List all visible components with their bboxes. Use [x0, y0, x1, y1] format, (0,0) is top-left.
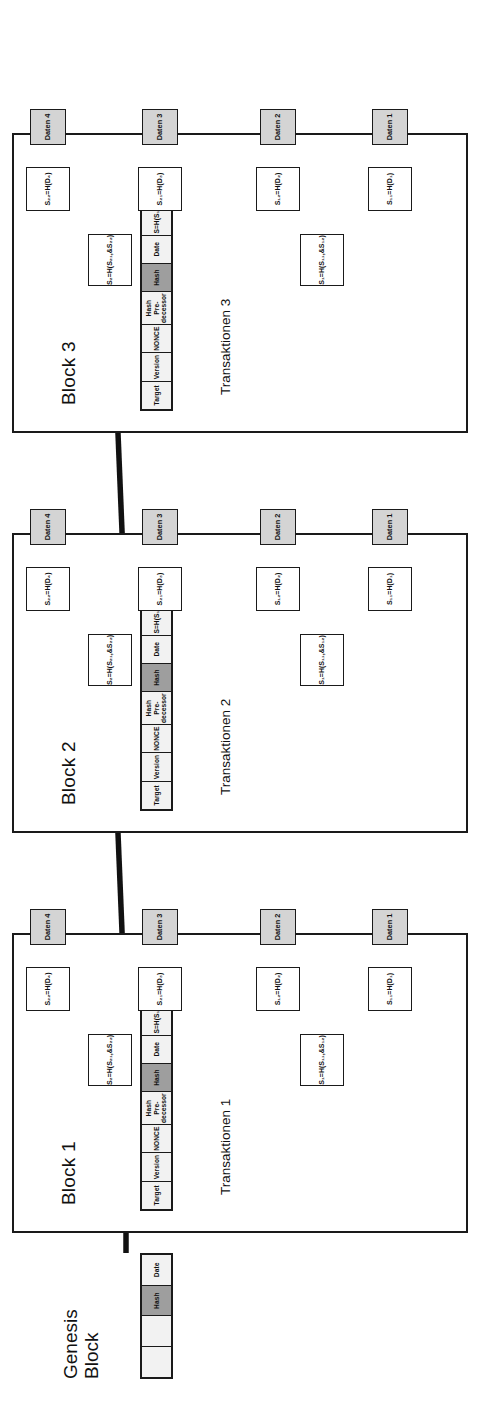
- block-1-header-cell-hash: Hash: [142, 1063, 171, 1091]
- block-1-data-4: Daten 4: [30, 909, 66, 945]
- genesis-header-cell-empty-0: [142, 1346, 171, 1377]
- genesis-block-header: HashDate: [140, 1253, 173, 1379]
- block-1-branch-left: S₁=H(S₁₁,&S₁₂): [300, 1034, 344, 1086]
- block-3-data-1: Daten 1: [372, 109, 408, 145]
- block-3-transactions-label: Transaktionen 3: [218, 299, 233, 395]
- block-1-data-3: Daten 3: [142, 909, 178, 945]
- block-2-leaf-hash-3: S₂₁=H(D₃): [138, 567, 182, 611]
- block-3-header-cell-hash: Hash: [142, 263, 171, 291]
- block-3-leaf-hash-2: S₁₂=H(D₂): [256, 167, 300, 211]
- block-2-branch-left: S₁=H(S₁₁,&S₁₂): [300, 634, 344, 686]
- block-2-header-cell-target: Target: [142, 781, 171, 809]
- genesis-header-cell-date: Date: [142, 1255, 171, 1285]
- block-2-header-cell-hash: Hash: [142, 663, 171, 691]
- block-3-branch-right: S₂=H(S₂₁,&S₂₂): [88, 234, 132, 286]
- block-3-header: TargetVersionNONCEHash Pre-decessorHashD…: [140, 191, 173, 411]
- block-2-leaf-hash-4: S₂₂=H(D₄): [26, 567, 70, 611]
- block-2-leaf-hash-2: S₁₂=H(D₂): [256, 567, 300, 611]
- block-3-leaf-hash-3: S₂₁=H(D₃): [138, 167, 182, 211]
- block-2-title: Block 2: [58, 741, 80, 805]
- block-3-header-cell-hash-pre-decessor: Hash Pre-decessor: [142, 291, 171, 324]
- block-2-leaf-hash-1: S₁₁=H(D₁): [368, 567, 412, 611]
- block-3-leaf-hash-1: S₁₁=H(D₁): [368, 167, 412, 211]
- block-2-header-cell-nonce: NONCE: [142, 724, 171, 752]
- block-1-header: TargetVersionNONCEHash Pre-decessorHashD…: [140, 991, 173, 1211]
- block-3-data-2: Daten 2: [260, 109, 296, 145]
- block-3-header-cell-version: Version: [142, 352, 171, 380]
- genesis-block-title: Genesis Block: [60, 1309, 102, 1379]
- block-2-branch-right: S₂=H(S₂₁,&S₂₂): [88, 634, 132, 686]
- block-2-header-cell-version: Version: [142, 752, 171, 780]
- block-2-header-cell-date: Date: [142, 635, 171, 663]
- block-1-title: Block 1: [58, 1141, 80, 1205]
- block-1-leaf-hash-4: S₂₂=H(D₄): [26, 967, 70, 1011]
- block-1-branch-right: S₂=H(S₂₁,&S₂₂): [88, 1034, 132, 1086]
- block-1-data-2: Daten 2: [260, 909, 296, 945]
- block-3-leaf-hash-4: S₂₂=H(D₄): [26, 167, 70, 211]
- genesis-title-line1: Genesis: [60, 1309, 81, 1379]
- block-2-transactions-label: Transaktionen 2: [218, 699, 233, 795]
- block-3-title: Block 3: [58, 341, 80, 405]
- genesis-title-line2: Block: [81, 1309, 102, 1379]
- block-1-leaf-hash-3: S₂₁=H(D₃): [138, 967, 182, 1011]
- block-2-header-cell-hash-pre-decessor: Hash Pre-decessor: [142, 691, 171, 724]
- block-2-data-2: Daten 2: [260, 509, 296, 545]
- block-1-header-cell-date: Date: [142, 1035, 171, 1063]
- block-1-header-cell-hash-pre-decessor: Hash Pre-decessor: [142, 1091, 171, 1124]
- block-3-header-cell-date: Date: [142, 235, 171, 263]
- blockchain-diagram: Genesis Block HashDate Block 1 TargetVer…: [0, 0, 480, 1401]
- block-3-header-cell-target: Target: [142, 381, 171, 409]
- block-2-header: TargetVersionNONCEHash Pre-decessorHashD…: [140, 591, 173, 811]
- block-3-data-4: Daten 4: [30, 109, 66, 145]
- block-3-data-3: Daten 3: [142, 109, 178, 145]
- block-1-leaf-hash-1: S₁₁=H(D₁): [368, 967, 412, 1011]
- block-3-branch-left: S₁=H(S₁₁,&S₁₂): [300, 234, 344, 286]
- block-1-header-cell-target: Target: [142, 1181, 171, 1209]
- block-1-transactions-label: Transaktionen 1: [218, 1099, 233, 1195]
- block-3-header-cell-nonce: NONCE: [142, 324, 171, 352]
- block-2-data-4: Daten 4: [30, 509, 66, 545]
- block-1-header-cell-nonce: NONCE: [142, 1124, 171, 1152]
- block-1-data-1: Daten 1: [372, 909, 408, 945]
- block-2-data-3: Daten 3: [142, 509, 178, 545]
- genesis-header-cell-hash: Hash: [142, 1285, 171, 1316]
- block-2-data-1: Daten 1: [372, 509, 408, 545]
- block-1-header-cell-version: Version: [142, 1152, 171, 1180]
- block-1-leaf-hash-2: S₁₂=H(D₂): [256, 967, 300, 1011]
- genesis-header-cell-empty-1: [142, 1316, 171, 1347]
